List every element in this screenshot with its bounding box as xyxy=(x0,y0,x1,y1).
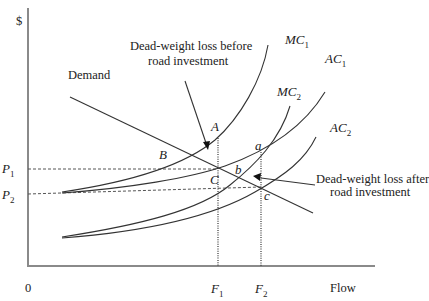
p2-label: P2 xyxy=(1,187,14,205)
dwl-after-label-line1: Dead-weight loss after xyxy=(316,172,429,186)
dwl-before-arrow-line xyxy=(185,81,206,143)
mc2-label: MC2 xyxy=(276,84,301,102)
demand-label: Demand xyxy=(68,68,111,82)
point-b-label: b xyxy=(235,162,242,177)
f1-label: F1 xyxy=(210,281,223,299)
dwl-after-label-line2: road investment xyxy=(330,185,411,199)
ac1-label: AC1 xyxy=(324,51,346,69)
dwl-before-label-line1: Dead-weight loss before xyxy=(130,39,253,53)
mc1-label: MC1 xyxy=(284,32,309,50)
point-B-label: B xyxy=(159,147,167,162)
mc2-curve xyxy=(62,106,290,237)
y-axis-label: $ xyxy=(16,14,22,28)
road-investment-deadweight-loss-diagram: $ 0 Flow P1 P2 F1 F2 Demand MC1 AC1 MC2 … xyxy=(0,0,429,301)
point-A-label: A xyxy=(210,119,219,134)
dwl-after-arrowhead-icon xyxy=(253,173,261,181)
p1-label: P1 xyxy=(1,161,14,179)
x-axis-label: Flow xyxy=(330,281,356,295)
point-C-label: C xyxy=(210,172,219,187)
ac2-label: AC2 xyxy=(329,120,351,138)
point-a-label: a xyxy=(255,138,262,153)
point-c-label: c xyxy=(264,188,270,203)
ac2-curve xyxy=(62,137,316,238)
origin-label: 0 xyxy=(25,281,31,295)
dwl-before-label-line2: road investment xyxy=(148,54,229,68)
f2-label: F2 xyxy=(254,281,267,299)
